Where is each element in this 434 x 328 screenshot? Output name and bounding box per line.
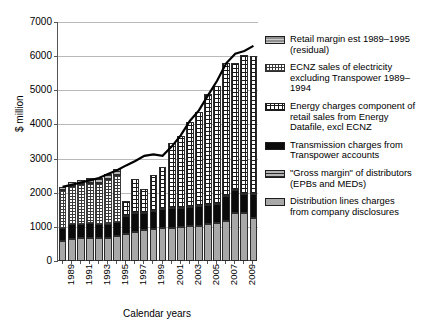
bar-column xyxy=(222,22,230,261)
legend-swatch-icon xyxy=(265,36,285,44)
x-axis-tick-label: 2007 xyxy=(229,264,239,285)
y-axis-tick xyxy=(54,227,58,228)
legend-item: Energy charges component of retail sales… xyxy=(265,101,433,133)
y-axis-tick xyxy=(54,56,58,57)
bar-segment xyxy=(131,179,139,213)
x-axis-tick xyxy=(198,261,199,264)
x-axis-tick xyxy=(207,261,208,264)
x-axis-tick-label: 1999 xyxy=(156,264,166,285)
legend-swatch-icon xyxy=(265,64,285,72)
bar-segment xyxy=(240,194,248,213)
bars-group xyxy=(58,22,258,261)
bar-segment xyxy=(250,194,258,218)
bar-column xyxy=(231,22,239,261)
x-axis-tick xyxy=(89,261,90,264)
x-axis-tick-label: 1991 xyxy=(84,264,94,285)
bar-segment xyxy=(140,230,148,261)
y-axis-tick-label: 3000 xyxy=(30,154,52,164)
bar-segment xyxy=(95,224,103,238)
bar-column xyxy=(186,22,194,261)
bar-segment xyxy=(113,169,121,176)
bar-column xyxy=(204,22,212,261)
x-axis-tick xyxy=(134,261,135,264)
x-axis-tick-label: 1997 xyxy=(138,264,148,285)
x-axis-tick xyxy=(162,261,163,264)
bar-segment xyxy=(168,228,176,261)
x-axis-tick-label: 2001 xyxy=(175,264,185,285)
x-axis-tick xyxy=(171,261,172,264)
x-axis-tick xyxy=(225,261,226,264)
bar-column xyxy=(95,22,103,261)
x-axis-tick xyxy=(98,261,99,264)
bar-segment xyxy=(240,213,248,261)
bar-segment xyxy=(104,224,112,238)
x-axis-title: Calendar years xyxy=(57,308,257,319)
bar-segment xyxy=(213,223,221,261)
bar-segment xyxy=(204,205,212,224)
legend-swatch-icon xyxy=(265,198,285,206)
bar-segment xyxy=(168,208,176,227)
bar-segment xyxy=(204,94,212,205)
bar-segment xyxy=(59,187,67,191)
x-axis-tick-label: 2009 xyxy=(247,264,257,285)
bar-segment xyxy=(231,190,239,212)
x-axis-tick xyxy=(152,261,153,264)
bar-segment xyxy=(150,175,158,212)
bar-segment xyxy=(150,229,158,261)
bar-segment xyxy=(195,206,203,225)
y-axis-tick-label: 1000 xyxy=(30,222,52,232)
x-axis-tick xyxy=(180,261,181,264)
legend-item-label: Energy charges component of retail sales… xyxy=(290,101,415,133)
plot-area: 01000200030004000500060007000 xyxy=(57,22,257,261)
bar-segment xyxy=(231,213,239,261)
bar-segment xyxy=(195,226,203,262)
bar-column xyxy=(168,22,176,261)
x-axis-tick-label: 1993 xyxy=(102,264,112,285)
bar-segment xyxy=(131,232,139,261)
bar-column xyxy=(213,22,221,261)
y-axis-tick xyxy=(54,90,58,91)
bar-segment xyxy=(204,224,212,261)
bar-segment xyxy=(231,63,239,190)
bar-segment xyxy=(113,236,121,261)
bar-column xyxy=(240,22,248,261)
bar-column xyxy=(77,22,85,261)
x-axis-tick xyxy=(125,261,126,264)
bar-segment xyxy=(95,184,103,224)
bar-segment xyxy=(240,55,248,194)
legend-item-label: "Gross margin" of distributors (EPBs and… xyxy=(290,168,412,189)
bar-segment xyxy=(59,191,67,227)
legend-item-label: Transmission charges from Transpower acc… xyxy=(290,140,403,161)
bar-segment xyxy=(95,238,103,261)
legend-item-label: Distribution lines charges from company … xyxy=(290,196,399,217)
bar-segment xyxy=(77,238,85,261)
x-axis-tick xyxy=(80,261,81,264)
y-axis-tick-label: 7000 xyxy=(30,17,52,27)
bar-segment xyxy=(113,222,121,236)
legend-item: ECNZ sales of electricity excluding Tran… xyxy=(265,62,433,94)
bar-segment xyxy=(195,112,203,206)
legend-swatch-icon xyxy=(265,103,285,111)
legend-item-label: Retail margin est 1989–1995 (residual) xyxy=(290,34,410,55)
bar-column xyxy=(195,22,203,261)
bar-segment xyxy=(186,207,194,226)
bar-segment xyxy=(86,223,94,237)
bar-segment xyxy=(122,216,130,234)
bar-segment xyxy=(168,143,176,208)
bar-segment xyxy=(177,136,185,208)
bar-column xyxy=(122,22,130,261)
bar-segment xyxy=(159,209,167,228)
bar-column xyxy=(150,22,158,261)
bar-segment xyxy=(86,184,94,224)
x-axis-tick xyxy=(143,261,144,264)
y-axis-tick xyxy=(54,159,58,160)
x-axis-tick-label: 1995 xyxy=(120,264,130,285)
bar-segment xyxy=(222,63,230,196)
bar-segment xyxy=(150,211,158,229)
legend-item: Transmission charges from Transpower acc… xyxy=(265,140,433,161)
bar-segment xyxy=(104,174,112,181)
y-axis-tick xyxy=(54,261,58,262)
bar-segment xyxy=(159,167,167,209)
x-axis-tick-label: 1989 xyxy=(66,264,76,285)
bar-segment xyxy=(104,238,112,261)
